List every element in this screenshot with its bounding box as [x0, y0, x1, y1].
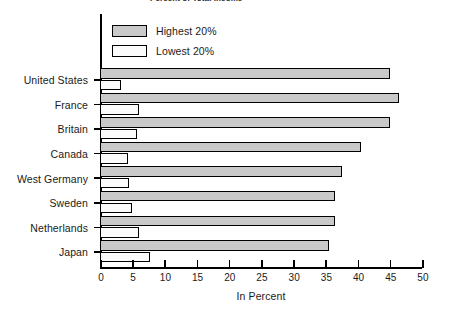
x-axis-tick	[390, 260, 392, 268]
bar-group	[100, 68, 422, 93]
bar-lowest-20	[100, 129, 137, 140]
legend-label-lowest: Lowest 20%	[156, 45, 214, 57]
x-axis-tick	[229, 260, 231, 268]
bar-lowest-20	[100, 104, 139, 115]
x-axis-title: In Percent	[100, 290, 422, 302]
x-axis-tick-label: 0	[98, 272, 104, 283]
x-axis-tick	[293, 260, 295, 268]
bar-group	[100, 142, 422, 167]
x-axis-tick-label: 30	[289, 272, 300, 283]
x-axis-tick-label: 35	[321, 272, 332, 283]
bar-highest-20	[100, 93, 399, 104]
y-axis-label-britain: Britain	[0, 117, 94, 142]
y-axis-label-japan: Japan	[0, 240, 94, 265]
bar-lowest-20	[100, 153, 128, 164]
x-axis-tick	[422, 260, 424, 268]
bar-lowest-20	[100, 203, 132, 214]
bar-highest-20	[100, 68, 390, 79]
bar-highest-20	[100, 117, 390, 128]
y-axis-label-canada: Canada	[0, 142, 94, 167]
y-axis-category-labels: United StatesFranceBritainCanadaWest Ger…	[0, 68, 94, 267]
bar-lowest-20	[100, 252, 150, 263]
x-axis-tick-label: 20	[224, 272, 235, 283]
bar-group	[100, 166, 422, 191]
x-axis-tick	[358, 260, 360, 268]
chart-title: Percent of Total Income	[150, 0, 242, 1]
x-axis-tick-label: 15	[192, 272, 203, 283]
bar-lowest-20	[100, 227, 139, 238]
y-axis-label-france: France	[0, 93, 94, 118]
x-axis-tick	[325, 260, 327, 268]
bar-highest-20	[100, 142, 361, 153]
legend-item-highest: Highest 20%	[112, 22, 217, 40]
bar-highest-20	[100, 240, 329, 251]
x-axis-tick-label: 50	[417, 272, 428, 283]
bar-lowest-20	[100, 80, 121, 91]
x-axis-tick	[100, 260, 102, 268]
y-axis-label-sweden: Sweden	[0, 191, 94, 216]
y-axis-label-netherlands: Netherlands	[0, 216, 94, 241]
bar-highest-20	[100, 191, 335, 202]
legend-item-lowest: Lowest 20%	[112, 42, 217, 60]
bars-plot-area	[100, 68, 422, 267]
legend-label-highest: Highest 20%	[156, 25, 217, 37]
y-axis-label-united-states: United States	[0, 68, 94, 93]
x-axis-tick-label: 10	[160, 272, 171, 283]
x-axis-tick-label: 40	[353, 272, 364, 283]
bar-lowest-20	[100, 178, 129, 189]
x-axis-tick-label: 45	[385, 272, 396, 283]
bar-highest-20	[100, 216, 335, 227]
chart-legend: Highest 20% Lowest 20%	[112, 22, 217, 62]
legend-swatch-lowest-icon	[112, 45, 147, 57]
bar-chart: Percent of Total Income Highest 20% Lowe…	[0, 0, 460, 314]
x-axis-tick	[164, 260, 166, 268]
x-axis-tick-label: 25	[256, 272, 267, 283]
x-axis-tick	[197, 260, 199, 268]
bar-highest-20	[100, 166, 342, 177]
bar-group	[100, 191, 422, 216]
y-axis-label-west-germany: West Germany	[0, 166, 94, 191]
x-axis-tick	[261, 260, 263, 268]
x-axis-tick-label: 5	[130, 272, 136, 283]
bar-group	[100, 93, 422, 118]
x-axis-tick	[132, 260, 134, 268]
legend-swatch-highest-icon	[112, 25, 147, 37]
bar-group	[100, 117, 422, 142]
bar-group	[100, 216, 422, 241]
